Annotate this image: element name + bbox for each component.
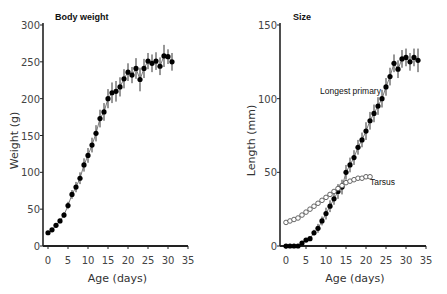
x-tick-label: 30 [400,255,413,266]
series-body-weight [45,45,174,235]
series-tarsus [284,174,373,224]
data-point [331,196,336,201]
x-tick-label: 15 [340,255,353,266]
data-point [65,203,70,208]
data-point [97,116,102,121]
data-point [363,128,368,133]
y-tick-label: 300 [21,20,40,31]
data-point [77,176,82,181]
data-point [121,76,126,81]
size-panel: 05010015005101520253035SizeAge (days)Len… [245,12,432,285]
data-point [311,230,316,235]
y-axis-label: Length (mm) [245,105,258,176]
data-point [81,162,86,167]
x-tick-label: 20 [122,255,135,266]
x-tick-label: 30 [162,255,175,266]
chart-title: Size [293,12,311,22]
data-point [415,58,420,63]
y-tick-label: 250 [21,57,40,68]
data-point [383,84,388,89]
data-point [93,131,98,136]
data-point [105,96,110,101]
data-point [307,236,312,241]
data-point [69,192,74,197]
data-point [53,223,58,228]
data-point [351,155,356,160]
chart-title: Body weight [55,12,109,22]
y-tick-label: 0 [34,241,40,252]
data-point [379,96,384,101]
data-point [323,211,328,216]
x-axis-label: Age (days) [325,272,384,285]
x-tick-label: 20 [360,255,373,266]
data-point [89,142,94,147]
y-tick-label: 50 [27,204,40,215]
x-tick-label: 25 [142,255,155,266]
x-tick-label: 5 [303,255,309,266]
x-tick-label: 25 [380,255,393,266]
y-tick-label: 150 [258,20,277,31]
data-point [169,59,174,64]
y-tick-label: 0 [271,241,277,252]
data-point [153,58,158,63]
data-point [375,103,380,108]
data-point [343,170,348,175]
data-point [315,226,320,231]
data-point [73,184,78,189]
x-tick-label: 10 [320,255,333,266]
data-point [359,137,364,142]
data-point [137,77,142,82]
data-point [371,111,376,116]
data-point [113,89,118,94]
data-point [85,153,90,158]
data-point [395,67,400,72]
data-point [355,145,360,150]
x-tick-label: 15 [102,255,115,266]
x-tick-label: 10 [82,255,95,266]
x-tick-label: 0 [283,255,289,266]
data-point [391,61,396,66]
data-point [157,64,162,69]
data-point [101,109,106,114]
y-tick-label: 100 [21,167,40,178]
y-tick-label: 100 [258,94,277,105]
annotation-label: Longest primary [320,86,382,96]
data-point [319,218,324,223]
data-point [61,212,66,217]
chart-figure: 05010015020025030005101520253035Body wei… [0,0,447,294]
y-tick-label: 150 [21,131,40,142]
y-tick-label: 50 [264,167,277,178]
data-point [117,84,122,89]
data-point [57,218,62,223]
data-point [129,72,134,77]
data-point [403,55,408,60]
y-axis-label: Weight (g) [8,112,21,169]
x-tick-label: 5 [65,255,71,266]
data-point [367,118,372,123]
data-point [347,162,352,167]
data-point [141,66,146,71]
annotation-label: Tarsus [370,177,395,187]
x-axis-label: Age (days) [88,272,147,285]
data-point [327,204,332,209]
data-point [387,74,392,79]
x-tick-label: 0 [45,255,51,266]
series-longest-primary [283,49,420,249]
data-point [407,59,412,64]
data-point [49,227,54,232]
y-tick-label: 200 [21,94,40,105]
data-point [133,66,138,71]
x-tick-label: 35 [182,255,195,266]
x-tick-label: 35 [420,255,433,266]
body-weight-panel: 05010015020025030005101520253035Body wei… [8,12,194,285]
data-point [165,54,170,59]
